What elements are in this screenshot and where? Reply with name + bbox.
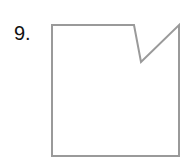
notched-square-figure xyxy=(0,0,196,163)
polygon-shape xyxy=(52,25,179,156)
